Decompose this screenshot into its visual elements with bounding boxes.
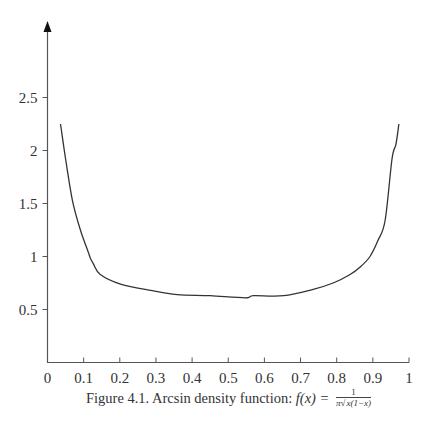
axes xyxy=(44,21,410,363)
y-tick-label: 2 xyxy=(30,143,38,159)
y-tick-label: 0.5 xyxy=(19,302,38,318)
x-tick-label: 0.3 xyxy=(147,370,166,386)
x-tick-label: 0.8 xyxy=(327,370,346,386)
figure-caption: Figure 4.1. Arcsin density function: f(x… xyxy=(86,389,371,410)
density-curve xyxy=(61,124,399,298)
y-tick-label: 1 xyxy=(30,249,38,265)
x-tick-label: 0.7 xyxy=(291,370,310,386)
arcsin-density-chart: 00.10.20.30.40.50.60.70.80.91 0.511.522.… xyxy=(0,0,430,432)
formula-lhs: f(x) = xyxy=(296,390,330,406)
y-ticks: 0.511.522.5 xyxy=(19,90,48,318)
x-tick-label: 0.6 xyxy=(255,370,274,386)
x-tick-label: 0.2 xyxy=(110,370,129,386)
radicand: x(1−x) xyxy=(345,397,371,408)
formula-fraction: 1 π√x(1−x) xyxy=(336,387,371,408)
caption-prefix: Figure 4.1. Arcsin density function: xyxy=(86,390,292,406)
y-tick-label: 2.5 xyxy=(19,90,38,106)
y-tick-label: 1.5 xyxy=(19,196,38,212)
x-tick-label: 1 xyxy=(405,370,413,386)
x-tick-label: 0 xyxy=(44,370,52,386)
y-axis-arrow-icon xyxy=(44,21,52,32)
x-ticks: 00.10.20.30.40.50.60.70.80.91 xyxy=(44,358,413,387)
x-tick-label: 0.4 xyxy=(183,370,202,386)
formula-denominator: π√x(1−x) xyxy=(336,398,371,408)
x-tick-label: 0.5 xyxy=(219,370,238,386)
x-tick-label: 0.1 xyxy=(74,370,93,386)
x-tick-label: 0.9 xyxy=(363,370,382,386)
